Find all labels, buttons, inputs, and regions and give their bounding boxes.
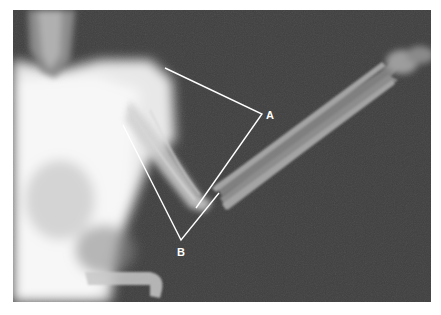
xray-image xyxy=(13,10,434,302)
label-a: A xyxy=(266,109,274,121)
label-b: B xyxy=(177,246,185,258)
radiograph-figure: A B xyxy=(0,0,441,315)
